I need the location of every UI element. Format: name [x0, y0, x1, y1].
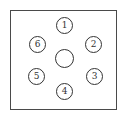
node-3: 3 — [86, 68, 103, 85]
node-label: 6 — [35, 40, 41, 49]
node-label: 1 — [62, 21, 68, 30]
node-4: 4 — [56, 83, 73, 100]
node-label: 5 — [34, 72, 40, 81]
node-label: 3 — [92, 72, 98, 81]
node-label: 4 — [62, 87, 68, 96]
node-label: 2 — [91, 40, 97, 49]
center-node — [55, 49, 74, 68]
node-2: 2 — [85, 36, 102, 53]
node-6: 6 — [29, 36, 46, 53]
node-1: 1 — [56, 17, 73, 34]
node-5: 5 — [28, 68, 45, 85]
